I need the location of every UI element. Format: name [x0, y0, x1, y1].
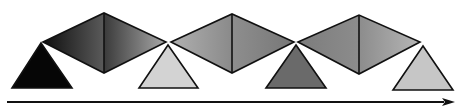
- sequence-diagram: [0, 0, 467, 109]
- diamond-3: [298, 15, 420, 74]
- triangle-4: [393, 46, 453, 90]
- diamond-1: [43, 13, 166, 73]
- diamond-2: [171, 14, 294, 73]
- diamonds-group: [43, 13, 420, 74]
- timeline-arrow: [7, 98, 455, 106]
